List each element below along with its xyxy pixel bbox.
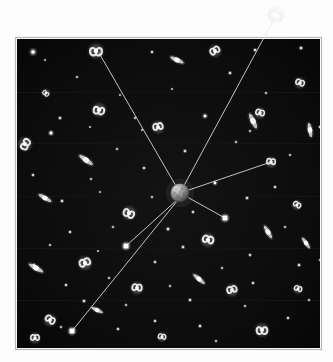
star-point-48 — [60, 326, 62, 328]
star-point-6 — [119, 94, 120, 95]
star-point-24 — [151, 196, 153, 198]
sphere-surface-mottle-7 — [180, 198, 182, 200]
star-point-43 — [252, 282, 254, 284]
star-point-14 — [116, 148, 118, 150]
star-point-40 — [65, 284, 67, 286]
sky-field-band-3 — [17, 248, 320, 249]
sightline-to-lower-right-star-endpoint-star — [223, 216, 228, 221]
galaxy-core — [94, 49, 99, 54]
sphere-surface-mottle-4 — [179, 191, 182, 194]
star-point-45 — [125, 304, 127, 306]
sky-diagram-canvas — [0, 0, 333, 362]
star-point-32 — [182, 246, 184, 248]
star-point-2 — [254, 49, 256, 51]
central-sphere-group — [166, 179, 195, 208]
star-point-38 — [221, 267, 223, 269]
star-point-12 — [249, 130, 251, 132]
astronomy-figure — [0, 0, 333, 362]
sightline-to-mid-left-star-endpoint-star — [124, 244, 129, 249]
galaxy-core — [260, 328, 264, 332]
star-point-50 — [154, 320, 156, 322]
star-point-11 — [141, 129, 142, 130]
star-point-58 — [89, 126, 90, 127]
star-point-31 — [49, 244, 51, 246]
sightline-to-lower-left-star-endpoint-star — [70, 329, 75, 334]
star-point-19 — [143, 167, 145, 169]
star-point-41 — [108, 277, 110, 279]
star-point-33 — [249, 254, 251, 256]
star-point-51 — [199, 325, 201, 327]
star-point-39 — [298, 264, 300, 266]
star-point-15 — [184, 150, 186, 152]
galaxy-core — [33, 336, 36, 339]
star-point-4 — [76, 76, 78, 78]
star-point-21 — [274, 186, 276, 188]
star-point-49 — [117, 328, 119, 330]
star-point-36 — [97, 250, 98, 251]
star-point-8 — [204, 115, 207, 118]
star-point-1 — [151, 51, 153, 53]
star-point-26 — [192, 211, 194, 213]
star-point-29 — [167, 228, 169, 230]
galaxy-bottom-right — [254, 322, 271, 339]
star-point-57 — [171, 88, 172, 89]
sky-field-band-1 — [17, 143, 320, 144]
star-point-17 — [32, 174, 34, 176]
star-point-54 — [215, 340, 217, 342]
star-point-55 — [44, 59, 45, 60]
sky-field-band-0 — [17, 92, 320, 93]
star-point-28 — [112, 226, 114, 228]
star-point-0 — [31, 50, 35, 54]
sphere-surface-mottle-6 — [174, 192, 177, 195]
star-point-44 — [83, 300, 85, 302]
star-point-25 — [246, 197, 248, 199]
star-point-56 — [265, 92, 267, 94]
star-point-7 — [59, 117, 61, 119]
star-point-30 — [284, 226, 286, 228]
sphere-surface-mottle-3 — [176, 194, 180, 198]
star-point-37 — [154, 261, 156, 263]
star-point-5 — [229, 72, 231, 74]
star-point-53 — [308, 299, 310, 301]
star-point-47 — [244, 305, 246, 307]
star-point-10 — [50, 132, 53, 135]
star-point-27 — [69, 231, 71, 233]
star-point-22 — [61, 200, 63, 202]
star-point-9 — [134, 117, 136, 119]
sphere-surface-mottle-2 — [182, 192, 186, 196]
galaxy-upper-left — [87, 42, 106, 61]
star-point-59 — [289, 154, 291, 156]
star-point-52 — [287, 317, 289, 319]
star-point-23 — [99, 191, 100, 192]
sphere-surface-mottle-5 — [182, 197, 184, 199]
star-point-18 — [90, 178, 92, 180]
star-point-42 — [169, 285, 171, 287]
sphere-highlight — [174, 186, 180, 192]
sphere-surface-mottle-1 — [181, 188, 184, 191]
galaxy-bottom-far-left — [28, 331, 42, 345]
star-point-16 — [235, 141, 237, 143]
star-point-35 — [33, 264, 35, 266]
sky-field-band-4 — [17, 300, 320, 301]
star-point-46 — [189, 299, 191, 301]
star-point-20 — [214, 182, 216, 184]
star-point-3 — [300, 47, 302, 49]
